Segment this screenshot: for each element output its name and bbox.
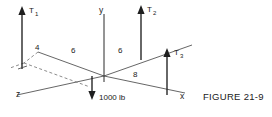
figure-21-9: T 1 T 2 T 3 y x z 4 6 6 8 1000 lb FIGURE… (0, 0, 272, 117)
dimension-label-4: 4 (35, 43, 40, 52)
y-axis-label: y (99, 5, 104, 15)
label-T2: T 2 (147, 5, 157, 16)
T1-subscript-label: 1 (35, 11, 39, 17)
T2-base-label: T (147, 5, 152, 14)
dashed-segment-a (24, 52, 38, 63)
T2-arrowhead (137, 5, 144, 14)
plane-edge-lower-right (104, 76, 185, 93)
plane-edge-upper-left (38, 52, 104, 76)
load-arrowhead (88, 91, 95, 100)
T3-subscript-label: 3 (180, 53, 184, 59)
dimension-label-8: 8 (133, 70, 138, 79)
z-axis-label: z (16, 89, 20, 99)
force-vector-T2 (137, 5, 144, 60)
dimension-label-6-left: 6 (71, 46, 76, 55)
statics-free-body-diagram: T 1 T 2 T 3 y x z 4 6 6 8 1000 lb FIGURE… (0, 0, 272, 117)
T3-base-label: T (174, 48, 179, 57)
dashed-segment-c (24, 63, 90, 87)
dimension-label-6-right: 6 (118, 46, 123, 55)
load-label: 1000 lb (99, 93, 126, 102)
force-vector-T1 (18, 6, 25, 69)
T1-arrowhead (18, 6, 25, 15)
force-vector-T3 (163, 48, 170, 95)
figure-caption: FIGURE 21-9 (203, 91, 264, 102)
T1-base-label: T (29, 6, 34, 15)
T2-subscript-label: 2 (153, 10, 157, 16)
label-T1: T 1 (29, 6, 39, 17)
